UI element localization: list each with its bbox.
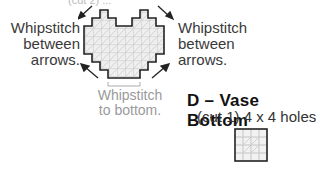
right-instruction-label: Whipstitch between arrows.	[178, 20, 268, 68]
left-label-line-3: arrows.	[8, 52, 80, 68]
bottom-label-line-2: to bottom.	[90, 103, 170, 118]
left-label-line-2: between	[8, 36, 80, 52]
left-label-line-1: Whipstitch	[8, 20, 80, 36]
right-label-line-3: arrows.	[178, 52, 268, 68]
arrow-icon-bottom-left	[81, 64, 98, 78]
right-label-line-2: between	[178, 36, 268, 52]
bottom-instruction-label: Whipstitch to bottom.	[90, 88, 170, 118]
arrow-icon-top-right	[158, 6, 173, 19]
heart-canvas-diagram	[78, 4, 174, 88]
arrow-icon-top-left	[78, 6, 92, 19]
left-instruction-label: Whipstitch between arrows.	[8, 20, 80, 68]
right-label-line-1: Whipstitch	[178, 20, 268, 36]
vase-bottom-grid-diagram	[234, 128, 268, 162]
bottom-label-line-1: Whipstitch	[90, 88, 170, 103]
arrow-icon-bottom-right	[152, 64, 169, 78]
vase-bottom-subtitle: (cut 1) 4 x 4 holes	[197, 108, 316, 125]
